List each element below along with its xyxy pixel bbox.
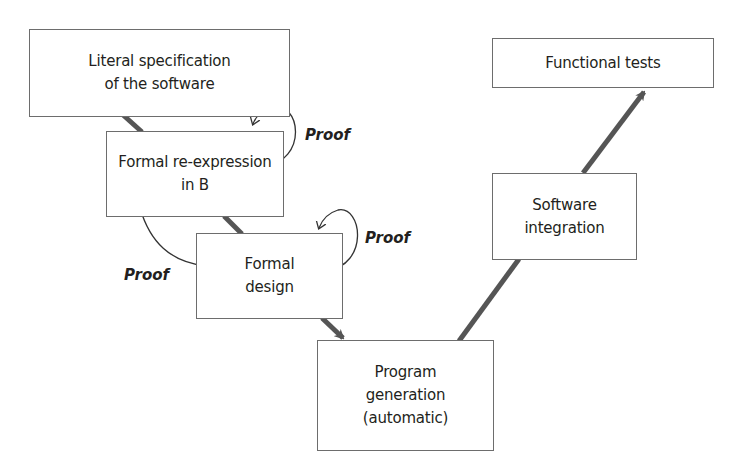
edge-integration-to-tests xyxy=(583,92,644,173)
box-label: Formal design xyxy=(245,253,295,299)
box-program-generation: Program generation (automatic) xyxy=(317,340,494,451)
box-label: Software integration xyxy=(524,194,604,240)
box-formal-design: Formal design xyxy=(196,233,343,319)
edge-generation-to-integration xyxy=(459,259,519,341)
edge-design-to-generation xyxy=(322,318,343,338)
box-functional-tests: Functional tests xyxy=(492,38,714,88)
edge-reexpression-to-design xyxy=(224,216,242,234)
box-software-integration: Software integration xyxy=(492,173,637,260)
proof-label-3: Proof xyxy=(124,266,169,284)
box-label: Program generation (automatic) xyxy=(363,361,448,430)
proof-label-2: Proof xyxy=(365,229,410,247)
box-label: Literal specification of the software xyxy=(88,50,230,96)
box-formal-reexpression: Formal re-expression in B xyxy=(106,131,284,217)
box-label: Formal re-expression in B xyxy=(118,151,271,197)
box-literal-specification: Literal specification of the software xyxy=(29,29,290,117)
proof-label-1: Proof xyxy=(305,126,350,144)
box-label: Functional tests xyxy=(545,52,660,75)
